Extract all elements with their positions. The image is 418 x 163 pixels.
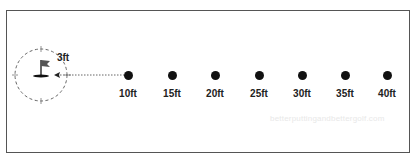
ball-marker [255,71,264,80]
distance-label: 30ft [293,88,311,99]
distance-label: 10ft [119,88,137,99]
distance-label: 40ft [378,88,396,99]
ball-marker [168,71,177,80]
ball-marker [383,71,392,80]
distance-label: 25ft [250,88,268,99]
ball-marker [211,71,220,80]
hole-zone-graphic [0,0,418,163]
radius-label: 3ft [57,52,69,63]
distance-label: 20ft [206,88,224,99]
distance-label: 35ft [336,88,354,99]
watermark: betterputtingandbettergolf.com [270,114,385,123]
putt-path-arrow [54,72,124,78]
ball-marker [124,71,133,80]
golf-flag-icon [33,60,50,78]
distance-label: 15ft [163,88,181,99]
ball-marker [298,71,307,80]
ball-marker [341,71,350,80]
